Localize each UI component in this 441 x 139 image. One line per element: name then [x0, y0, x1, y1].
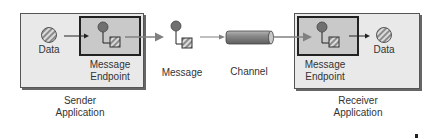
receiver-application-label: Receiver Application — [328, 95, 388, 119]
receiver-endpoint-message-icon — [317, 22, 339, 47]
receiver-endpoint-label-line2: Endpoint — [297, 71, 353, 83]
receiver-endpoint-label-line1: Message — [297, 59, 353, 71]
channel-to-receiver-arrow — [274, 33, 312, 42]
receiver-data-arrow — [349, 34, 370, 39]
message-icon — [171, 21, 192, 48]
receiver-application-label-line1: Receiver — [328, 95, 388, 107]
receiver-data-icon — [377, 28, 392, 43]
sender-endpoint-message-icon — [98, 22, 120, 47]
corner-mark — [415, 134, 418, 138]
sender-application-label-line2: Application — [50, 107, 110, 119]
receiver-application-label-line2: Application — [328, 107, 388, 119]
sender-endpoint-label: Message Endpoint — [82, 59, 138, 83]
channel-pipe-icon — [226, 31, 274, 44]
sender-endpoint-label-line1: Message — [82, 59, 138, 71]
message-to-channel-arrow — [200, 35, 225, 40]
sender-data-icon — [42, 28, 57, 43]
sender-application-label-line1: Sender — [50, 95, 110, 107]
receiver-endpoint-label: Message Endpoint — [297, 59, 353, 83]
sender-data-arrow — [64, 34, 89, 39]
sender-data-label: Data — [34, 44, 64, 56]
channel-label: Channel — [226, 66, 272, 78]
receiver-data-label: Data — [369, 44, 399, 56]
message-label: Message — [158, 67, 206, 79]
sender-endpoint-label-line2: Endpoint — [82, 71, 138, 83]
sender-application-label: Sender Application — [50, 95, 110, 119]
sender-to-message-arrow — [125, 33, 164, 42]
